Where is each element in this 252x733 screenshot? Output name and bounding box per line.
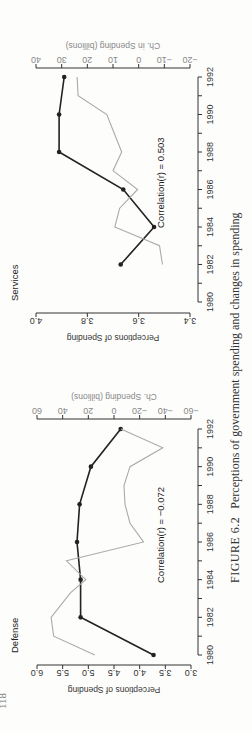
left-axis-tick-label: 4.0: [30, 316, 43, 326]
year-axis-tick-label: 1990: [205, 457, 215, 477]
year-axis-tick-label: 1984: [205, 570, 215, 590]
right-axis-tick-label: 20: [82, 55, 92, 65]
left-axis-label: Perceptions of Spending: [67, 685, 160, 695]
right-axis-tick-label: 0: [136, 55, 141, 65]
perception-marker: [89, 464, 94, 469]
year-axis-tick-label: 1992: [205, 419, 215, 439]
year-axis-tick-label: 1988: [205, 494, 215, 514]
figure-caption: FIGURE 6.2 Perceptions of government spe…: [228, 83, 243, 583]
perception-marker: [118, 427, 123, 432]
right-axis-tick-label: 40: [58, 406, 68, 416]
perception-line: [59, 77, 154, 265]
right-axis-label: Ch. Spending (billions): [71, 392, 157, 402]
left-axis-label: Perceptions of Spending: [66, 333, 159, 343]
panel-title: Defense: [9, 618, 20, 653]
perception-marker: [62, 75, 67, 80]
perception-marker: [121, 187, 126, 192]
left-axis-tick-label: 6.0: [31, 668, 44, 678]
right-axis-tick-label: 10: [108, 55, 118, 65]
year-axis-tick-label: 1980: [205, 645, 215, 665]
right-axis-tick-label: −40: [158, 406, 173, 416]
left-axis-tick-label: 3.0: [185, 668, 198, 678]
perception-marker: [151, 653, 156, 658]
year-axis-tick-label: 1982: [205, 254, 215, 274]
year-axis-tick-label: 1982: [205, 607, 215, 627]
right-axis-tick-label: 20: [83, 406, 93, 416]
year-axis-tick-label: 1984: [205, 217, 215, 237]
left-axis-tick-label: 4.0: [133, 668, 146, 678]
right-axis-tick-label: 30: [57, 55, 67, 65]
perception-marker: [75, 540, 80, 545]
right-axis-tick-label: −20: [132, 406, 147, 416]
left-axis-tick-label: 5.5: [56, 668, 69, 678]
book-page: 118 Defense3.03.54.04.55.05.56.0Percepti…: [0, 0, 252, 733]
panel-title: Services: [9, 264, 20, 301]
perception-marker: [77, 502, 82, 507]
right-axis-tick-label: 0: [111, 406, 116, 416]
year-axis-tick-label: 1988: [205, 142, 215, 162]
left-axis-tick-label: 3.5: [159, 668, 172, 678]
year-axis-tick-label: 1992: [205, 67, 215, 87]
perception-marker: [78, 615, 83, 620]
year-axis-tick-label: 1986: [205, 532, 215, 552]
right-axis-tick-label: 40: [31, 55, 41, 65]
perception-marker: [57, 112, 62, 117]
defense-panel: Defense3.03.54.04.55.05.56.0Perceptions …: [9, 392, 215, 695]
right-axis-label: Ch. in Spending (billions): [66, 41, 161, 51]
figure-charts: Defense3.03.54.04.55.05.56.0Perceptions …: [0, 0, 252, 733]
spending-change-line: [51, 429, 163, 655]
figure-caption-text: Perceptions of government spending and c…: [228, 212, 242, 508]
perception-marker: [57, 150, 62, 155]
year-axis-tick-label: 1986: [205, 179, 215, 199]
left-axis-tick-label: 3.4: [184, 316, 197, 326]
correlation-annotation: Correlation(r) = 0.503: [155, 137, 166, 228]
left-axis-tick-label: 4.5: [108, 668, 121, 678]
correlation-annotation: Correlation(r) = −0.072: [155, 487, 166, 583]
right-axis-tick-label: −60: [183, 406, 198, 416]
year-axis-tick-label: 1980: [205, 292, 215, 312]
perception-marker: [78, 577, 83, 582]
left-axis-tick-label: 3.8: [81, 316, 94, 326]
right-axis-tick-label: −10: [157, 55, 172, 65]
perception-marker: [118, 262, 123, 267]
services-panel: Services3.43.63.84.0Perceptions of Spend…: [9, 41, 215, 343]
figure-label: FIGURE 6.2: [228, 517, 242, 583]
right-axis-tick-label: 60: [32, 406, 42, 416]
year-axis-tick-label: 1990: [205, 104, 215, 124]
left-axis-tick-label: 5.0: [82, 668, 95, 678]
right-axis-tick-label: −20: [182, 55, 197, 65]
left-axis-tick-label: 3.6: [132, 316, 145, 326]
